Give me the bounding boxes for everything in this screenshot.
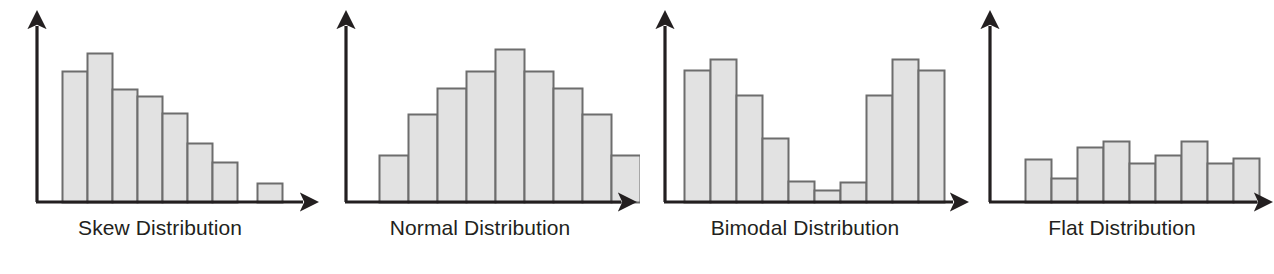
bimodal-bar-7 (841, 183, 867, 203)
bimodal-bar-3 (737, 96, 763, 203)
normal-bar-4 (467, 72, 496, 203)
flat-bar-2 (1052, 179, 1078, 203)
chart-caption-flat: Flat Distribution (970, 216, 1274, 240)
chart-panel-bimodal: Bimodal Distribution (640, 0, 970, 274)
chart-caption-bimodal: Bimodal Distribution (640, 216, 970, 240)
normal-bar-9 (612, 156, 641, 203)
bars-group-skew (63, 54, 283, 203)
histogram-plot-normal (320, 0, 640, 214)
bars-group-bimodal (685, 60, 945, 203)
histogram-plot-flat (970, 0, 1274, 214)
flat-bar-9 (1234, 159, 1260, 203)
skew-bar-7 (213, 163, 238, 203)
chart-panel-skew: Skew Distribution (0, 0, 320, 274)
bimodal-bar-2 (711, 60, 737, 203)
histogram-plot-bimodal (640, 0, 970, 214)
normal-bar-1 (380, 156, 409, 203)
flat-bar-6 (1156, 156, 1182, 203)
bars-group-normal (380, 50, 641, 203)
chart-caption-skew: Skew Distribution (0, 216, 320, 240)
normal-bar-6 (525, 72, 554, 203)
distribution-histogram-figure: Skew DistributionNormal DistributionBimo… (0, 0, 1274, 274)
normal-bar-5 (496, 50, 525, 203)
normal-bar-7 (554, 89, 583, 203)
flat-bar-4 (1104, 142, 1130, 203)
flat-bar-3 (1078, 148, 1104, 203)
normal-bar-8 (583, 115, 612, 203)
chart-caption-normal: Normal Distribution (320, 216, 640, 240)
chart-panel-flat: Flat Distribution (970, 0, 1274, 274)
flat-bar-1 (1026, 160, 1052, 203)
flat-bar-7 (1182, 142, 1208, 203)
histogram-plot-skew (0, 0, 320, 214)
skew-bar-6 (188, 144, 213, 203)
flat-bar-5 (1130, 164, 1156, 203)
bimodal-bar-4 (763, 139, 789, 203)
bars-group-flat (1026, 142, 1260, 203)
bimodal-bar-9 (893, 60, 919, 203)
chart-panel-normal: Normal Distribution (320, 0, 640, 274)
skew-bar-2 (88, 54, 113, 203)
skew-bar-1 (63, 72, 88, 203)
normal-bar-3 (438, 89, 467, 203)
bimodal-bar-1 (685, 71, 711, 203)
skew-bar-8-outlier (258, 184, 283, 203)
skew-bar-3 (113, 90, 138, 203)
skew-bar-4 (138, 97, 163, 203)
bimodal-bar-5 (789, 182, 815, 203)
bimodal-bar-8 (867, 96, 893, 203)
flat-bar-8 (1208, 164, 1234, 203)
normal-bar-2 (409, 115, 438, 203)
skew-bar-5 (163, 114, 188, 203)
bimodal-bar-10 (919, 71, 945, 203)
